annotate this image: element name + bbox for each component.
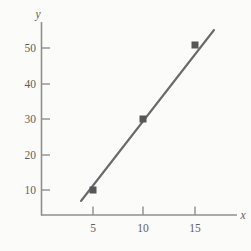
axes-group xyxy=(41,22,237,216)
y-axis-tick-labels: 50 40 30 20 10 xyxy=(25,42,37,196)
x-tick-label-15: 15 xyxy=(189,222,201,234)
data-point-marker xyxy=(140,116,147,123)
data-point-marker xyxy=(192,42,199,49)
scatter-plot: 50 40 30 20 10 5 10 15 y x xyxy=(0,0,251,251)
trend-line xyxy=(81,30,214,201)
x-axis-title: x xyxy=(239,209,246,221)
y-tick-label-40: 40 xyxy=(25,78,37,90)
x-tick-label-5: 5 xyxy=(90,222,96,234)
y-tick-label-10: 10 xyxy=(25,184,37,196)
y-tick-label-50: 50 xyxy=(25,42,37,54)
chart-container: 50 40 30 20 10 5 10 15 y x xyxy=(0,0,251,251)
x-axis-ticks xyxy=(93,207,195,216)
y-tick-label-30: 30 xyxy=(25,113,37,125)
y-tick-label-20: 20 xyxy=(25,149,37,161)
y-axis-title: y xyxy=(34,8,41,21)
data-point-marker xyxy=(90,187,97,194)
x-axis-tick-labels: 5 10 15 xyxy=(90,222,201,234)
y-axis-ticks xyxy=(42,48,51,190)
x-tick-label-10: 10 xyxy=(137,222,149,234)
